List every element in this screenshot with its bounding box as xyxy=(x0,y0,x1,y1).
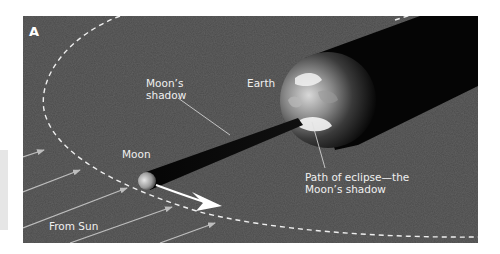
moon xyxy=(138,172,156,190)
label-moon: Moon xyxy=(122,148,151,160)
label-earth: Earth xyxy=(247,77,275,89)
label-moons-shadow: Moon’s shadow xyxy=(146,77,186,101)
eclipse-figure: A Moon’s shadow Earth Moon Path of eclip… xyxy=(0,0,500,254)
earth xyxy=(280,52,376,148)
label-moons-shadow-line2: shadow xyxy=(146,89,186,101)
eclipse-diagram xyxy=(0,0,500,254)
label-path-line1: Path of eclipse—the xyxy=(305,171,409,183)
label-path-of-eclipse: Path of eclipse—the Moon’s shadow xyxy=(305,171,409,195)
label-moons-shadow-line1: Moon’s xyxy=(146,77,186,89)
label-path-line2: Moon’s shadow xyxy=(305,183,409,195)
label-from-sun: From Sun xyxy=(49,220,98,232)
panel-letter: A xyxy=(29,24,39,39)
